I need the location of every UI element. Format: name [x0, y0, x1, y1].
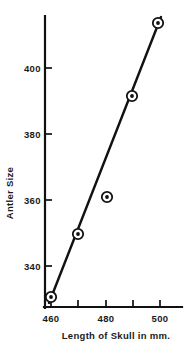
data-point: [73, 229, 83, 239]
y-axis-tick-labels: 400 380 360 340: [24, 63, 41, 272]
data-point: [46, 292, 56, 302]
x-tick-label-460: 460: [42, 313, 59, 324]
y-tick-label-360: 360: [24, 195, 41, 206]
data-point: [153, 18, 163, 28]
chart-canvas: 400 380 360 340 460 480 500: [0, 0, 188, 352]
y-tick-label-380: 380: [24, 129, 41, 140]
x-axis-title: Length of Skull in mm.: [62, 330, 170, 341]
x-axis-tick-labels: 460 480 500: [42, 313, 168, 324]
scatter-chart-figure: 400 380 360 340 460 480 500: [0, 0, 188, 352]
y-axis-title: Antler Size: [4, 167, 15, 219]
y-tick-label-400: 400: [24, 63, 41, 74]
fitted-regression-line: [49, 17, 161, 303]
data-point: [127, 91, 137, 101]
x-tick-label-500: 500: [151, 313, 168, 324]
y-tick-label-340: 340: [24, 261, 41, 272]
data-point: [102, 192, 112, 202]
x-tick-label-480: 480: [97, 313, 114, 324]
